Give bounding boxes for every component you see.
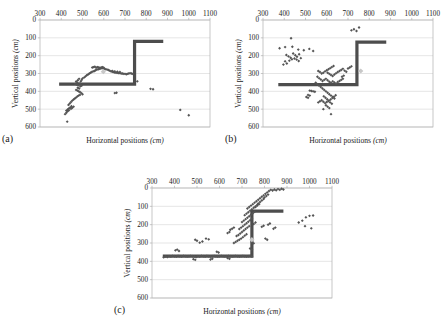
xtick-label-700: 700 [120, 10, 131, 18]
ytick-label-400: 400 [137, 258, 148, 266]
xtick-label-300: 300 [147, 178, 158, 186]
ytick-label-0: 0 [144, 184, 148, 192]
ytick-label-500: 500 [25, 106, 36, 114]
xtick-label-500: 500 [192, 178, 203, 186]
y-axis-title: Vertical positions (cm) [11, 39, 20, 108]
ytick-label-100: 100 [137, 203, 148, 211]
ytick-label-600: 600 [25, 123, 36, 131]
xtick-label-900: 900 [162, 10, 173, 18]
panel-b: 3004005006007008009001000110001002003004… [223, 0, 446, 164]
y-axis-title: Vertical positions (cm) [234, 39, 243, 108]
scatter-plot-a: 3004005006007008009001000110001002003004… [0, 0, 223, 164]
svg-text:Vertical positions (cm): Vertical positions (cm) [234, 39, 243, 108]
xtick-label-700: 700 [237, 178, 248, 186]
panel-a: 3004005006007008009001000110001002003004… [0, 0, 223, 164]
ytick-label-200: 200 [137, 221, 148, 229]
xtick-label-1100: 1100 [325, 178, 340, 186]
x-axis-title: Horizontal positions (cm) [86, 136, 164, 145]
ytick-label-300: 300 [248, 70, 259, 78]
ytick-label-200: 200 [25, 52, 36, 60]
xtick-label-300: 300 [258, 10, 269, 18]
ytick-label-600: 600 [137, 294, 148, 302]
xtick-label-600: 600 [98, 10, 109, 18]
xtick-label-400: 400 [169, 178, 180, 186]
scatter-plot-c: 3004005006007008009001000110001002003004… [100, 164, 350, 328]
xtick-label-900: 900 [385, 10, 396, 18]
ytick-label-0: 0 [32, 16, 36, 24]
xtick-label-300: 300 [35, 10, 46, 18]
xtick-label-1000: 1000 [302, 178, 317, 186]
ytick-label-200: 200 [248, 52, 259, 60]
ytick-label-100: 100 [25, 34, 36, 42]
ytick-label-100: 100 [248, 34, 259, 42]
ytick-label-0: 0 [255, 16, 259, 24]
xtick-label-400: 400 [279, 10, 290, 18]
xtick-label-600: 600 [321, 10, 332, 18]
xtick-label-600: 600 [214, 178, 225, 186]
xtick-label-500: 500 [300, 10, 311, 18]
ytick-label-300: 300 [137, 239, 148, 247]
x-axis-title: Horizontal positions (cm) [203, 307, 281, 316]
xtick-label-1000: 1000 [182, 10, 197, 18]
ytick-label-300: 300 [25, 70, 36, 78]
scatter-plot-b: 3004005006007008009001000110001002003004… [223, 0, 446, 164]
y-axis-title: Vertical positions (cm) [123, 208, 132, 277]
panel-label-b: (b) [225, 133, 237, 144]
ytick-label-600: 600 [248, 123, 259, 131]
xtick-label-1100: 1100 [203, 10, 218, 18]
ytick-label-500: 500 [137, 276, 148, 284]
ytick-label-400: 400 [25, 88, 36, 96]
xtick-label-800: 800 [141, 10, 152, 18]
xtick-label-1000: 1000 [405, 10, 420, 18]
panel-label-a: (a) [2, 133, 13, 144]
x-axis-title: Horizontal positions (cm) [309, 136, 387, 145]
xtick-label-500: 500 [77, 10, 88, 18]
panel-label-c: (c) [114, 304, 125, 315]
xtick-label-800: 800 [259, 178, 270, 186]
ytick-label-400: 400 [248, 88, 259, 96]
svg-text:Vertical positions (cm): Vertical positions (cm) [11, 39, 20, 108]
xtick-label-800: 800 [364, 10, 375, 18]
panel-c: 3004005006007008009001000110001002003004… [100, 164, 350, 328]
xtick-label-400: 400 [56, 10, 67, 18]
xtick-label-700: 700 [343, 10, 354, 18]
svg-text:Vertical positions (cm): Vertical positions (cm) [123, 208, 132, 277]
xtick-label-1100: 1100 [426, 10, 441, 18]
xtick-label-900: 900 [282, 178, 293, 186]
ytick-label-500: 500 [248, 106, 259, 114]
